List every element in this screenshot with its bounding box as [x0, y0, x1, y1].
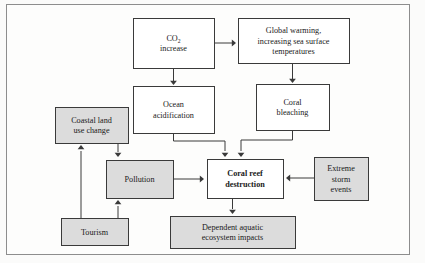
node-extreme-storm-events: Extremestormevents: [315, 158, 369, 201]
edge-tourism-to-pollution: [115, 200, 122, 218]
node-label-line: bleaching: [277, 108, 309, 117]
node-coral-reef-destruction: Coral reefdestruction: [208, 160, 284, 199]
edge-line: [241, 130, 293, 151]
node-label-line: increase: [160, 44, 187, 53]
node-co2: CO2increase: [134, 19, 215, 69]
arrowhead-icon: [229, 210, 236, 214]
arrowhead-icon: [200, 176, 204, 183]
diagram-page: CO2increaseGlobal warming,increasing sea…: [0, 0, 425, 263]
node-label-line: acidification: [153, 111, 194, 120]
edge-global-warming-to-coral-bleaching: [289, 63, 296, 83]
node-tourism: Tourism: [62, 219, 129, 246]
node-label-line: storm: [332, 175, 351, 184]
edge-line: [174, 133, 226, 151]
edge-coastal-land-use-to-pollution: [115, 143, 122, 157]
arrowhead-icon: [286, 175, 290, 182]
edge-tourism-to-coastal-land-use: [78, 145, 85, 218]
node-dependent-aquatic: Dependent aquaticecosystem impacts: [171, 217, 296, 249]
arrowhead-icon: [115, 153, 122, 157]
arrowhead-icon: [115, 200, 122, 204]
arrowhead-icon: [289, 79, 296, 83]
node-label-line: use change: [73, 126, 110, 135]
arrowhead-icon: [222, 153, 229, 157]
edge-extreme-storm-to-coral-reef: [286, 175, 314, 182]
node-label-line: Pollution: [124, 175, 154, 184]
arrowhead-icon: [78, 145, 85, 149]
node-label-line: ecosystem impacts: [202, 233, 264, 242]
edge-pollution-to-coral-reef: [173, 176, 204, 183]
node-global-warming: Global warming,increasing sea surfacetem…: [239, 19, 350, 64]
node-layer: CO2increaseGlobal warming,increasing sea…: [56, 19, 369, 249]
node-coastal-land-use: Coastal landuse change: [56, 108, 129, 144]
node-label-line: Coral reef: [227, 169, 263, 178]
arrowhead-icon: [232, 40, 236, 47]
node-label-line: Global warming,: [266, 26, 321, 35]
edge-ocean-acidification-to-coral-reef: [174, 133, 229, 157]
node-pollution: Pollution: [107, 161, 174, 199]
arrowhead-icon: [238, 153, 245, 157]
flowchart-canvas: CO2increaseGlobal warming,increasing sea…: [0, 0, 425, 263]
edge-coral-bleaching-to-coral-reef: [238, 130, 293, 157]
node-label-line: Coral: [283, 98, 302, 107]
edge-co2-to-ocean-acidification: [170, 68, 177, 85]
arrowhead-icon: [170, 81, 177, 85]
node-ocean-acidification: Oceanacidification: [134, 87, 215, 134]
node-label-line: destruction: [225, 180, 265, 189]
node-coral-bleaching: Coralbleaching: [257, 85, 330, 131]
node-label-line: Extreme: [327, 164, 355, 173]
node-label-line: Coastal land: [71, 116, 112, 125]
node-label-line: Tourism: [81, 228, 109, 237]
node-label-line: temperatures: [272, 47, 314, 56]
node-label-line: Ocean: [163, 100, 184, 109]
node-label-line: events: [331, 185, 352, 194]
edge-co2-to-global-warming: [214, 40, 236, 47]
node-label-line: increasing sea surface: [258, 37, 330, 46]
node-label-line: Dependent aquatic: [202, 223, 264, 232]
edge-coral-reef-to-dependent-aquatic: [229, 198, 236, 214]
